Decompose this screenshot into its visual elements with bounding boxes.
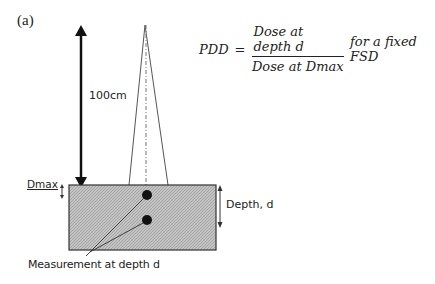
- depth-label: Depth, d: [226, 198, 273, 211]
- formula-condition: for a fixed FSD: [350, 34, 435, 64]
- dmax-arrow: [60, 184, 64, 199]
- formula-numerator: Dose at depth d: [252, 24, 345, 57]
- panel-label: (a): [17, 12, 34, 29]
- distance-label: 100cm: [89, 89, 127, 102]
- beam-cone: [129, 25, 168, 185]
- dmax-label: Dmax: [27, 178, 58, 190]
- measurement-label: Measurement at depth d: [28, 258, 160, 271]
- distance-arrow: [75, 25, 87, 188]
- formula-fraction: Dose at depth d Dose at Dmax: [252, 24, 345, 74]
- depth-arrow: [218, 185, 223, 228]
- formula-lhs: PDD: [199, 42, 229, 57]
- measurement-point-depth-d: [142, 215, 152, 225]
- pdd-formula: PDD = Dose at depth d Dose at Dmax for a…: [199, 24, 435, 74]
- formula-equals: =: [235, 42, 246, 57]
- formula-denominator: Dose at Dmax: [252, 57, 344, 74]
